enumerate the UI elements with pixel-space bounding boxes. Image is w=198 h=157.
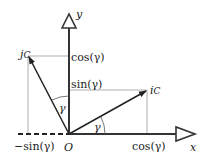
x-axis-label: x	[190, 141, 197, 154]
coordinate-diagram: y x O cos(γ) sin(γ) cos(γ) −sin(γ) jC iC…	[0, 0, 198, 157]
vector-i	[69, 91, 146, 134]
x-axis	[69, 127, 195, 141]
guide-lines	[28, 56, 147, 134]
angle-arc-i	[101, 117, 105, 134]
neg-sin-x-axis-label: −sin(γ)	[14, 140, 55, 153]
angle-arc-j	[52, 96, 69, 100]
cos-y-axis-label: cos(γ)	[71, 51, 105, 64]
angle-j-label: γ	[59, 102, 66, 115]
sin-y-axis-label: sin(γ)	[71, 78, 102, 91]
origin-label: O	[64, 141, 73, 154]
cos-x-axis-label: cos(γ)	[132, 140, 166, 153]
vector-j	[29, 57, 69, 134]
y-axis-arrow-icon	[62, 14, 76, 28]
vector-j-label: jC	[17, 48, 30, 61]
y-axis	[62, 14, 76, 134]
x-axis-arrow-icon	[176, 127, 195, 141]
angle-i-label: γ	[94, 121, 101, 134]
vector-i-label: iC	[150, 84, 161, 97]
y-axis-label: y	[75, 8, 83, 21]
